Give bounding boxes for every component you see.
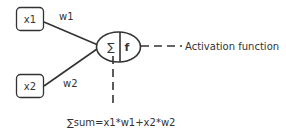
activation-function-label: Activation function — [185, 41, 279, 52]
perceptron-diagram: x1 x2 w1 w2 ∑ f Activation function ∑sum… — [0, 0, 286, 137]
sum-formula-label: ∑sum=x1*w1+x2*w2 — [67, 117, 175, 128]
input-node-x1: x1 — [17, 8, 44, 31]
weight-label-w2: w2 — [63, 78, 78, 89]
connection-x1 — [44, 22, 98, 45]
neuron: ∑ f — [97, 32, 141, 62]
weight-label-w1: w1 — [59, 11, 74, 22]
activation-symbol: f — [125, 41, 130, 54]
neuron-body — [97, 32, 141, 62]
input-label-x2: x2 — [24, 81, 36, 92]
input-label-x1: x1 — [24, 14, 36, 25]
sum-symbol: ∑ — [107, 41, 115, 54]
input-node-x2: x2 — [17, 75, 44, 98]
